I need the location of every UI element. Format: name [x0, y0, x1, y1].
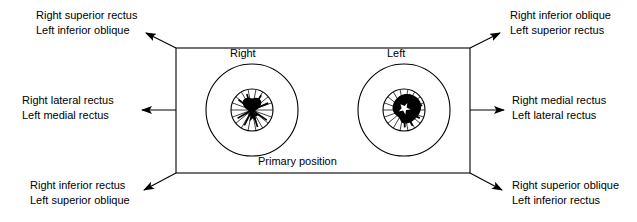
label-middle-left-line1: Right lateral rectus — [22, 93, 114, 108]
arrow-bottom-right — [470, 173, 502, 190]
label-top-left-line2: Left inferior oblique — [36, 23, 138, 38]
label-top-left: Right superior rectus Left inferior obli… — [36, 8, 138, 38]
label-middle-left-line2: Left medial rectus — [22, 108, 114, 123]
arrow-top-right — [470, 33, 500, 48]
arrow-bottom-left — [144, 173, 176, 190]
label-bottom-left-line1: Right inferior rectus — [30, 178, 130, 193]
label-bottom-left: Right inferior rectus Left superior obli… — [30, 178, 130, 208]
label-top-right-line1: Right inferior oblique — [510, 8, 611, 23]
left-eye-label: Left — [387, 47, 405, 59]
left-eye-figure — [358, 64, 450, 156]
arrow-top-left — [146, 33, 176, 48]
label-bottom-right: Right superior oblique Left inferior rec… — [512, 178, 619, 208]
label-top-right-line2: Left superior rectus — [510, 23, 611, 38]
label-middle-right: Right medial rectus Left lateral rectus — [512, 93, 606, 123]
label-bottom-left-line2: Left superior oblique — [30, 193, 130, 208]
right-eye-figure — [206, 64, 298, 156]
gaze-positions-diagram: Right superior rectus Left inferior obli… — [0, 0, 637, 222]
label-bottom-right-line2: Left inferior rectus — [512, 193, 619, 208]
label-top-right: Right inferior oblique Left superior rec… — [510, 8, 611, 38]
label-middle-right-line2: Left lateral rectus — [512, 108, 606, 123]
label-middle-left: Right lateral rectus Left medial rectus — [22, 93, 114, 123]
label-bottom-right-line1: Right superior oblique — [512, 178, 619, 193]
primary-position-caption: Primary position — [258, 155, 337, 167]
label-top-left-line1: Right superior rectus — [36, 8, 138, 23]
label-middle-right-line1: Right medial rectus — [512, 93, 606, 108]
right-eye-label: Right — [230, 47, 256, 59]
